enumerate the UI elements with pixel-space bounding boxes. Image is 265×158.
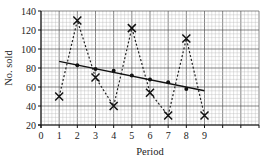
axes [38, 11, 259, 128]
x-tick-label: 0 [39, 130, 44, 141]
dot-marker [75, 63, 79, 67]
y-axis-label: No. sold [3, 49, 14, 85]
grid [41, 11, 259, 125]
dot-marker [94, 67, 98, 71]
dot-marker [112, 69, 116, 73]
y-tick-label: 120 [21, 25, 36, 36]
y-tick-label: 60 [26, 82, 36, 93]
y-tick-label: 20 [26, 120, 36, 131]
x-axis-label: Period [136, 146, 164, 157]
x-tick-label: 9 [202, 130, 207, 141]
x-tick-label: 2 [75, 130, 80, 141]
y-tick-label: 80 [26, 63, 36, 74]
x-tick-label: 8 [184, 130, 189, 141]
x-tick-labels: 0123456789 [39, 130, 208, 141]
y-tick-label: 40 [26, 101, 36, 112]
x-tick-label: 5 [129, 130, 134, 141]
y-tick-label: 100 [21, 44, 36, 55]
y-tick-label: 140 [21, 6, 36, 17]
dot-marker [184, 87, 188, 91]
chart: 20406080100120140 0123456789 Period No. … [0, 0, 265, 158]
x-tick-label: 6 [148, 130, 153, 141]
y-tick-labels: 20406080100120140 [21, 6, 36, 131]
dot-marker [130, 74, 134, 78]
x-tick-label: 3 [93, 130, 98, 141]
dot-marker [166, 80, 170, 84]
x-tick-label: 7 [166, 130, 171, 141]
x-tick-label: 1 [57, 130, 62, 141]
x-tick-label: 4 [111, 130, 116, 141]
dot-marker [148, 77, 152, 81]
